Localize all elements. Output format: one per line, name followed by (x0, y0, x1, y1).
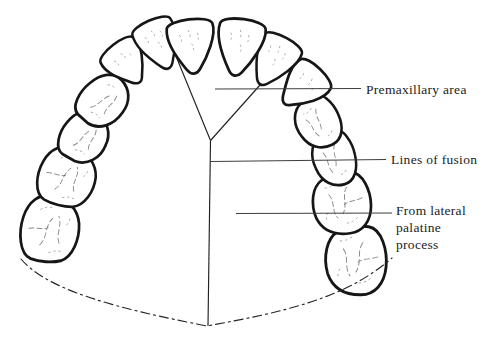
median-palatine-suture (208, 141, 211, 327)
tooth-right-second-molar (323, 224, 389, 297)
palate-diagram: Premaxillary area Lines of fusion From l… (0, 0, 488, 343)
palatine-leader (236, 213, 392, 214)
premaxillary-leader (215, 89, 361, 90)
dental-arch (17, 12, 390, 297)
tooth-left-central-incisor (165, 17, 218, 77)
label-premaxillary-area: Premaxillary area (366, 81, 467, 98)
palate-svg (0, 0, 488, 343)
fusion-leader (211, 160, 386, 162)
label-lateral-palatine-process: From lateral palatine process (396, 202, 480, 253)
lines-of-fusion-group (171, 44, 277, 326)
label-lines-of-fusion: Lines of fusion (391, 151, 477, 168)
